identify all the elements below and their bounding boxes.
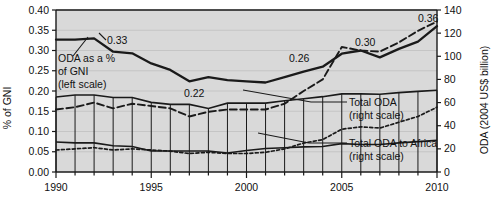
y2-tick-label: 40 <box>444 119 456 131</box>
annotation-total-oda-africa-line2: (right scale) <box>349 150 404 162</box>
x-tick-label: 2000 <box>235 181 259 193</box>
y2-tick-label: 60 <box>444 96 456 108</box>
y-tick-label: 0.25 <box>29 64 50 76</box>
y2-tick-label: 120 <box>444 27 462 39</box>
y-tick-label: 0.40 <box>29 4 50 16</box>
y-tick-label: 0.10 <box>29 125 50 137</box>
x-tick-label: 1990 <box>44 181 68 193</box>
annotation-oda-gni-line3: (left scale) <box>58 78 106 90</box>
y-tick-label: 0.20 <box>29 85 50 97</box>
point-label-0_26: 0.26 <box>289 52 310 64</box>
chart-canvas: 0.000.050.100.150.200.250.300.350.400204… <box>0 0 497 207</box>
x-tick-label: 2010 <box>425 181 449 193</box>
y2-tick-label: 0 <box>444 166 450 178</box>
y2-tick-label: 100 <box>444 50 462 62</box>
y2-axis-title: ODA (2004 US$ billion) <box>478 46 490 155</box>
y2-tick-label: 20 <box>444 142 456 154</box>
y-tick-label: 0.35 <box>29 24 50 36</box>
y2-tick-label: 140 <box>444 4 462 16</box>
y-tick-label: 0.30 <box>29 44 50 56</box>
y-tick-label: 0.05 <box>29 145 50 157</box>
y-tick-label: 0.15 <box>29 105 50 117</box>
annotation-oda-gni-line1: ODA as a % <box>58 52 115 64</box>
y-axis-title: % of GNI <box>1 87 13 130</box>
annotation-oda-gni-line2: of GNI <box>58 65 88 77</box>
annotation-total-oda-africa-line1: Total ODA to Africa <box>349 137 437 149</box>
point-label-0_30: 0.30 <box>355 36 376 48</box>
y2-tick-label: 80 <box>444 73 456 85</box>
annotation-total-oda-line1: Total ODA <box>349 96 397 108</box>
y-tick-label: 0.00 <box>29 166 50 178</box>
annotation-total-oda-line2: (right scale) <box>349 109 404 121</box>
x-tick-label: 2005 <box>330 181 354 193</box>
point-label-0_22: 0.22 <box>184 87 205 99</box>
point-label-0_33: 0.33 <box>107 34 128 46</box>
x-tick-label: 1995 <box>140 181 164 193</box>
chart-figure: 0.000.050.100.150.200.250.300.350.400204… <box>0 0 497 207</box>
point-label-0_36: 0.36 <box>418 12 439 24</box>
